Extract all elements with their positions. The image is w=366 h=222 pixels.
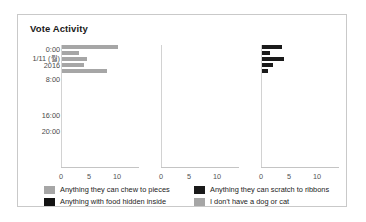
x-axis-line bbox=[261, 167, 339, 168]
x-axis-tick-label: 10 bbox=[213, 172, 221, 181]
vote-activity-card: Vote Activity 0:001/11 (월)20168:0016:002… bbox=[17, 14, 347, 207]
y-axis-tick-label: 16:00 bbox=[14, 111, 60, 120]
legend-swatch-icon bbox=[44, 198, 55, 206]
legend-swatch-icon bbox=[194, 198, 205, 206]
y-axis-tick-label: 8:00 bbox=[14, 75, 60, 84]
x-axis-tick-label: 0 bbox=[259, 172, 263, 181]
x-axis-line bbox=[61, 167, 139, 168]
bar bbox=[262, 69, 268, 73]
y-axis-line bbox=[161, 45, 162, 167]
legend-item-label: Anything they can chew to pieces bbox=[60, 185, 170, 194]
bar bbox=[62, 51, 79, 55]
bar bbox=[62, 57, 87, 61]
legend-item-label: Anything they can scratch to ribbons bbox=[210, 185, 329, 194]
bar bbox=[62, 63, 84, 67]
x-axis-line bbox=[161, 167, 239, 168]
y-axis-tick-label: 20:00 bbox=[14, 127, 60, 136]
chart-legend: Anything they can chew to pieces Anythin… bbox=[44, 184, 344, 208]
x-axis-tick-label: 0 bbox=[59, 172, 63, 181]
y-axis-tick-label: 2016 bbox=[14, 61, 60, 70]
chart-plot-area: 0:001/11 (월)20168:0016:0020:00 051005100… bbox=[18, 15, 348, 208]
bar bbox=[262, 57, 284, 61]
x-axis-tick-label: 10 bbox=[313, 172, 321, 181]
legend-swatch-icon bbox=[44, 186, 55, 194]
x-axis-tick-label: 10 bbox=[113, 172, 121, 181]
x-axis-tick-label: 5 bbox=[287, 172, 291, 181]
legend-item: Anything they can chew to pieces bbox=[44, 184, 194, 195]
legend-item: Anything with food hidden inside bbox=[44, 196, 194, 207]
y-axis-labels: 0:001/11 (월)20168:0016:0020:00 bbox=[14, 15, 60, 208]
legend-item-label: I don't have a dog or cat bbox=[210, 197, 289, 206]
bar bbox=[62, 69, 107, 73]
legend-item: I don't have a dog or cat bbox=[194, 196, 344, 207]
bar bbox=[262, 51, 270, 55]
x-axis-tick-label: 5 bbox=[87, 172, 91, 181]
legend-item: Anything they can scratch to ribbons bbox=[194, 184, 344, 195]
legend-item-label: Anything with food hidden inside bbox=[60, 197, 166, 206]
legend-swatch-icon bbox=[194, 186, 205, 194]
bar bbox=[62, 45, 118, 49]
bar bbox=[262, 63, 273, 67]
x-axis-tick-label: 0 bbox=[159, 172, 163, 181]
bar bbox=[262, 45, 282, 49]
x-axis-tick-label: 5 bbox=[187, 172, 191, 181]
